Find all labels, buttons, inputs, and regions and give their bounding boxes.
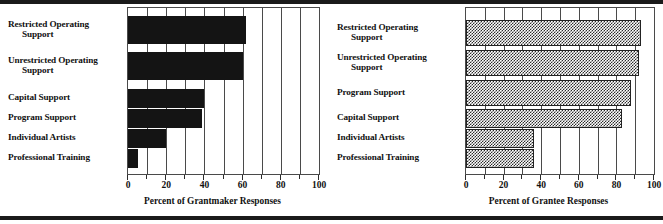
- x-axis-tick-labels-left: 020406080100: [127, 180, 320, 194]
- gridline: [262, 8, 263, 174]
- x-tick-label: 60: [238, 180, 248, 190]
- category-label-line: Professional Training: [337, 152, 455, 163]
- category-label-line: Unrestricted Operating: [8, 55, 126, 66]
- category-label-line: Capital Support: [337, 112, 455, 123]
- category-label: Program Support: [337, 87, 455, 98]
- category-label-line: Individual Artists: [8, 132, 126, 143]
- bar: [128, 149, 138, 168]
- x-tick-minor: [634, 175, 635, 179]
- category-label: Individual Artists: [8, 132, 126, 143]
- bar: [128, 129, 166, 148]
- bar: [466, 109, 622, 128]
- bar: [128, 109, 202, 128]
- gridline: [281, 8, 282, 174]
- category-label: Capital Support: [8, 92, 126, 103]
- category-label-line: Support: [337, 62, 455, 73]
- plot-area-left: [127, 7, 320, 175]
- category-label-line: Support: [337, 32, 455, 43]
- category-label-line: Individual Artists: [337, 132, 455, 143]
- category-label-line: Professional Training: [8, 152, 126, 163]
- x-axis-title-right: Percent of Grantee Responses: [441, 196, 656, 206]
- category-label: Unrestricted OperatingSupport: [337, 52, 455, 73]
- x-tick-minor: [521, 175, 522, 179]
- category-label-line: Capital Support: [8, 92, 126, 103]
- x-tick-label: 20: [499, 180, 509, 190]
- bar: [466, 20, 641, 46]
- category-label-line: Program Support: [8, 112, 126, 123]
- x-tick-minor: [146, 175, 147, 179]
- category-label-line: Restricted Operating: [8, 19, 126, 30]
- bar: [128, 16, 246, 44]
- x-tick-minor: [299, 175, 300, 179]
- category-label-line: Support: [8, 65, 126, 76]
- x-axis-tick-labels-right: 020406080100: [465, 180, 655, 194]
- category-label-line: Unrestricted Operating: [337, 52, 455, 63]
- category-label: Individual Artists: [337, 132, 455, 143]
- x-tick-label: 40: [536, 180, 546, 190]
- x-tick-minor: [559, 175, 560, 179]
- x-tick-minor: [597, 175, 598, 179]
- x-tick-label: 0: [464, 180, 469, 190]
- category-label: Professional Training: [8, 152, 126, 163]
- x-tick-label: 60: [574, 180, 584, 190]
- x-tick-label: 100: [312, 180, 326, 190]
- x-tick-minor: [261, 175, 262, 179]
- category-label-line: Restricted Operating: [337, 22, 455, 33]
- category-label: Program Support: [8, 112, 126, 123]
- category-label-line: Support: [8, 29, 126, 40]
- category-label: Capital Support: [337, 112, 455, 123]
- plot-area-right: [465, 7, 655, 175]
- bar: [128, 52, 243, 80]
- bar: [466, 149, 534, 168]
- category-label: Professional Training: [337, 152, 455, 163]
- x-tick-label: 80: [612, 180, 622, 190]
- x-tick-minor: [184, 175, 185, 179]
- x-tick-label: 20: [161, 180, 171, 190]
- category-label: Restricted OperatingSupport: [8, 19, 126, 40]
- category-label-line: Program Support: [337, 87, 455, 98]
- gridline: [300, 8, 301, 174]
- chart-panel-grantee: Restricted OperatingSupportUnrestricted …: [331, 0, 663, 224]
- bar: [466, 129, 534, 148]
- category-label-column-right: Restricted OperatingSupportUnrestricted …: [337, 6, 455, 176]
- category-label: Restricted OperatingSupport: [337, 22, 455, 43]
- bar: [466, 80, 631, 106]
- x-tick-label: 100: [647, 180, 661, 190]
- category-label-column-left: Restricted OperatingSupportUnrestricted …: [8, 6, 126, 176]
- bar: [466, 50, 639, 76]
- x-tick-label: 40: [200, 180, 210, 190]
- x-tick-label: 0: [126, 180, 131, 190]
- x-tick-label: 80: [276, 180, 286, 190]
- chart-panel-grantmaker: Restricted OperatingSupportUnrestricted …: [0, 0, 331, 224]
- figure-container: Restricted OperatingSupportUnrestricted …: [0, 0, 663, 224]
- x-tick-minor: [223, 175, 224, 179]
- category-label: Unrestricted OperatingSupport: [8, 55, 126, 76]
- x-tick-minor: [484, 175, 485, 179]
- bar: [128, 89, 204, 108]
- x-axis-title-left: Percent of Grantmaker Responses: [100, 196, 325, 206]
